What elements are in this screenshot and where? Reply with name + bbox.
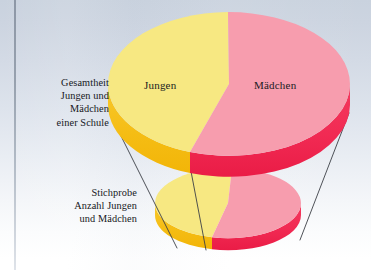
- caption-sample-line-1: Stichprobe: [44, 186, 137, 199]
- figure-canvas: Gesamtheit Jungen und Mädchen einer Schu…: [0, 0, 371, 270]
- caption-population-line-3: Mädchen: [12, 102, 109, 115]
- slice-label-maedchen: Mädchen: [254, 79, 296, 91]
- caption-sample-line-2: Anzahl Jungen: [44, 199, 137, 212]
- caption-population-line-1: Gesamtheit: [12, 76, 109, 89]
- caption-population-line-4: einer Schule: [12, 116, 109, 129]
- caption-population: Gesamtheit Jungen und Mädchen einer Schu…: [12, 76, 109, 129]
- caption-population-line-2: Jungen und: [12, 89, 109, 102]
- small-pie-sample: [155, 168, 301, 250]
- page-spine-line: [14, 0, 16, 270]
- caption-sample: Stichprobe Anzahl Jungen und Mädchen: [44, 186, 137, 226]
- slice-label-jungen: Jungen: [144, 79, 176, 91]
- pie-diagram-artwork: [0, 0, 371, 270]
- caption-sample-line-3: und Mädchen: [44, 212, 137, 225]
- large-pie-population: [108, 12, 350, 177]
